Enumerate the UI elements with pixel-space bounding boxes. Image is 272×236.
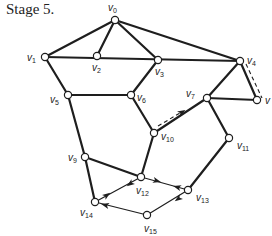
edge-v0-v4 — [115, 20, 240, 61]
vertex-v7 — [203, 94, 210, 101]
edge-layer — [45, 20, 257, 215]
edge-v12-v14 — [95, 177, 141, 202]
vertex-v14 — [91, 198, 98, 205]
vertex-v0 — [111, 16, 118, 23]
edge-v11-v13 — [188, 138, 229, 190]
edge-v12-v13 — [141, 177, 188, 190]
vertex-v4 — [236, 57, 243, 64]
vertex-v2 — [93, 52, 100, 59]
vertex-label-v4: v4 — [247, 55, 256, 67]
arrowhead-icon — [102, 190, 112, 200]
vertex-label-v5: v5 — [50, 94, 59, 106]
edge-v9-v14 — [85, 157, 95, 202]
edge-v5-v9 — [68, 95, 85, 157]
edge-v3-v6 — [131, 60, 158, 95]
arrowhead-icon — [172, 183, 181, 191]
vertex-v10 — [150, 129, 157, 136]
vertex-label-v13: v13 — [196, 192, 209, 204]
edge-v1-v4 — [45, 57, 240, 61]
vertex-label-v0: v0 — [108, 2, 117, 14]
edge-v1-v5 — [45, 57, 68, 95]
vertex-label-v2: v2 — [92, 62, 101, 74]
vertex-label-v10: v10 — [161, 131, 174, 143]
vertex-v13 — [184, 186, 191, 193]
vertex-label-v11: v11 — [237, 140, 249, 152]
graph-diagram: v0v1v2v3v4v5v6v7vv9v10v11v12v13v14v15 — [0, 0, 272, 236]
vertex-label-v3: v3 — [155, 66, 164, 78]
vertex-label-v6: v6 — [137, 92, 146, 104]
edge-v0-v1 — [45, 20, 115, 57]
vertex-v1 — [41, 53, 48, 60]
edge-v7-v8 — [207, 98, 257, 100]
edge-v7-v11 — [207, 98, 229, 138]
label-layer: v0v1v2v3v4v5v6v7vv9v10v11v12v13v14v15 — [27, 2, 271, 235]
vertex-v15 — [143, 211, 150, 218]
vertex-v8 — [253, 96, 260, 103]
vertex-label-v12: v12 — [136, 185, 149, 197]
vertex-v6 — [127, 91, 134, 98]
vertex-label-v9: v9 — [68, 152, 77, 164]
vertex-v3 — [154, 56, 161, 63]
vertex-label-v8: v — [265, 95, 271, 106]
vertex-label-v14: v14 — [80, 207, 93, 219]
vertex-v11 — [225, 134, 232, 141]
edge-v13-v15 — [147, 190, 188, 215]
vertex-label-v15: v15 — [144, 223, 157, 235]
vertex-label-v1: v1 — [27, 52, 36, 64]
vertex-v9 — [81, 153, 88, 160]
vertex-v5 — [64, 91, 71, 98]
vertex-v12 — [137, 173, 144, 180]
vertex-label-v7: v7 — [186, 88, 195, 100]
edge-v4-v7 — [207, 61, 240, 98]
edge-v10-v12 — [141, 133, 154, 177]
edge-v9-v12 — [85, 157, 141, 177]
